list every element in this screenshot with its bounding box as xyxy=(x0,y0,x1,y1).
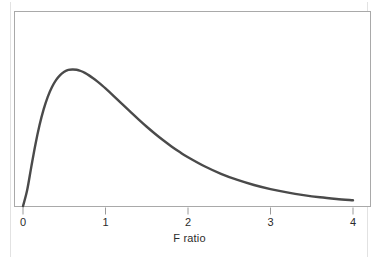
chart-page: 01234 F ratio xyxy=(0,0,381,261)
x-tick-label-1: 1 xyxy=(96,216,116,228)
x-tick-label-0: 0 xyxy=(13,216,33,228)
x-axis-tick-marks xyxy=(23,208,353,215)
f-distribution-curve xyxy=(23,69,353,206)
x-axis-title-text: F ratio xyxy=(173,232,206,244)
x-tick-label-4: 4 xyxy=(343,216,363,228)
x-axis-title: F ratio xyxy=(0,232,381,244)
x-tick-label-3: 3 xyxy=(261,216,281,228)
x-tick-label-2: 2 xyxy=(178,216,198,228)
